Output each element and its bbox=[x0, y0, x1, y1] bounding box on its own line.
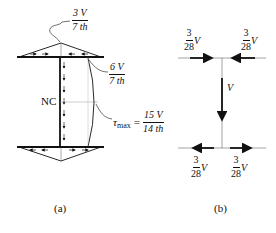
web-shear-distribution bbox=[88, 58, 94, 147]
bottom-right-force-label: 3 28 V bbox=[231, 155, 247, 179]
tau-max-den: 14 th bbox=[143, 123, 163, 135]
leader-tau-max bbox=[96, 104, 112, 119]
bottom-right-force-var: V bbox=[241, 162, 247, 173]
tau-subscript: max bbox=[117, 121, 131, 130]
top-left-force-label: 3 28 V bbox=[184, 28, 200, 52]
top-flange-label-num: 3 V bbox=[72, 8, 88, 21]
top-right-force-var: V bbox=[251, 35, 257, 46]
neutral-axis-label: NC bbox=[41, 96, 56, 107]
panel-a-caption: (a) bbox=[54, 202, 66, 214]
panel-b-caption: (b) bbox=[214, 202, 227, 214]
leader-top bbox=[50, 21, 70, 42]
top-right-force-label: 3 28 V bbox=[241, 28, 257, 52]
bottom-left-force-num: 3 bbox=[193, 155, 200, 168]
tau-max-label: τ max = 15 V 14 th bbox=[113, 110, 164, 134]
bottom-right-force-num: 3 bbox=[233, 155, 240, 168]
bottom-left-force-den: 28 bbox=[191, 168, 201, 180]
top-flange-label-den: 7 th bbox=[72, 21, 87, 33]
bottom-left-force-var: V bbox=[201, 162, 207, 173]
panel-b-free-body bbox=[178, 58, 266, 148]
tau-equals: = bbox=[134, 116, 140, 128]
top-flange-shear-distribution bbox=[19, 43, 101, 57]
web-force-label: V bbox=[227, 83, 233, 93]
web-top-label-num: 6 V bbox=[109, 62, 125, 75]
web-top-label: 6 V 7 th bbox=[109, 62, 125, 86]
panel-a-section bbox=[17, 21, 112, 161]
bottom-right-force-den: 28 bbox=[231, 168, 241, 180]
tau-max-num: 15 V bbox=[143, 110, 164, 123]
tau-max-fraction: 15 V 14 th bbox=[143, 110, 164, 134]
top-flange-label: 3 V 7 th bbox=[72, 8, 88, 32]
bottom-left-force-label: 3 28 V bbox=[191, 155, 207, 179]
top-right-force-den: 28 bbox=[241, 41, 251, 53]
top-left-force-num: 3 bbox=[186, 28, 193, 41]
bottom-flange-shear-distribution bbox=[19, 147, 101, 161]
web-top-label-den: 7 th bbox=[109, 75, 124, 87]
top-left-force-den: 28 bbox=[184, 41, 194, 53]
top-right-force-num: 3 bbox=[243, 28, 250, 41]
top-left-force-var: V bbox=[194, 35, 200, 46]
leader-web-top bbox=[89, 60, 108, 72]
